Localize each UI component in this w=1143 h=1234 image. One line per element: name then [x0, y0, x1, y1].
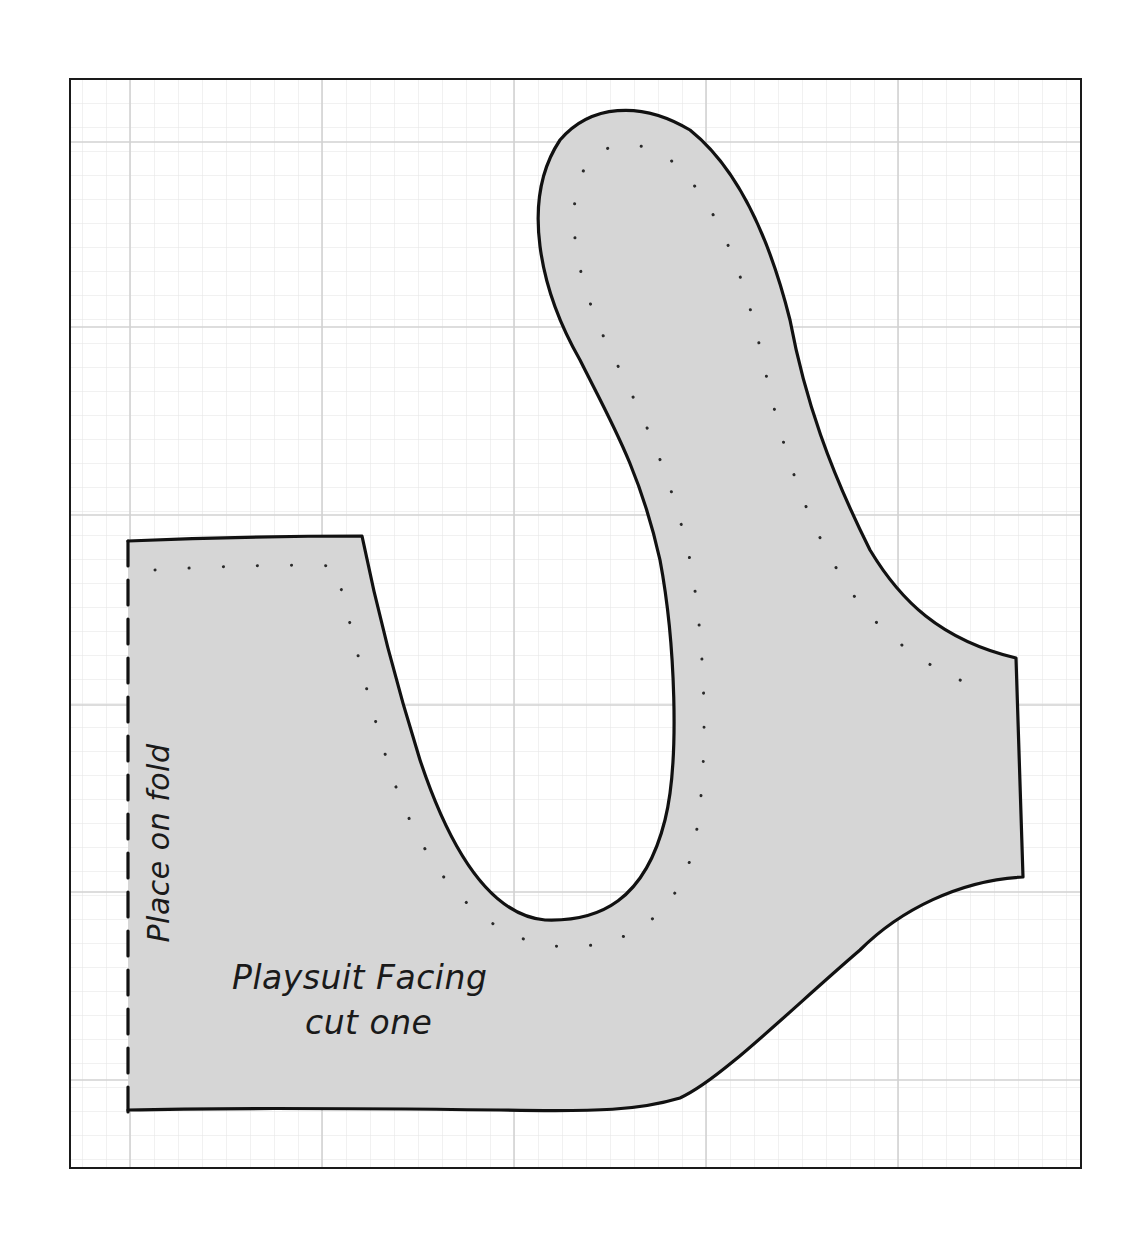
piece-name-label: Playsuit Facing	[232, 958, 487, 997]
fold-label: Place on fold	[141, 744, 176, 943]
cut-instruction-label: cut one	[305, 1003, 432, 1042]
pattern-diagram	[0, 0, 1143, 1234]
pattern-canvas	[0, 0, 1143, 1234]
